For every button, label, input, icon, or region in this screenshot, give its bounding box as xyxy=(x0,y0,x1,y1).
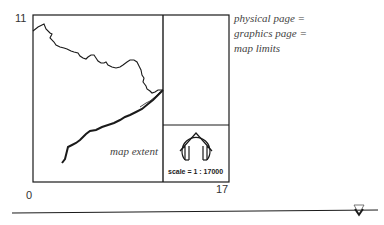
baseline xyxy=(12,210,378,213)
y-max-label: 11 xyxy=(15,12,26,24)
north-arrow-icon xyxy=(180,133,212,160)
page-note-line: map limits xyxy=(234,41,307,56)
coastline-path-lower-inner xyxy=(140,92,160,107)
diagram-canvas xyxy=(0,0,384,225)
page-note: physical page = graphics page = map limi… xyxy=(234,11,307,56)
coastline-path xyxy=(33,24,163,93)
page-note-line: graphics page = xyxy=(234,26,307,41)
scale-label: scale = 1 : 17000 xyxy=(168,168,223,175)
page-note-line: physical page = xyxy=(234,11,307,26)
x-max-label: 17 xyxy=(216,183,228,195)
map-extent-label: map extent xyxy=(110,144,158,159)
origin-label: 0 xyxy=(26,189,32,201)
